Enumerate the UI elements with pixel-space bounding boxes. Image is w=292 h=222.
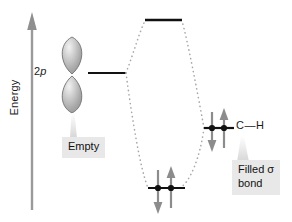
up-arrow-icon: [27, 12, 37, 30]
ch-bond-label: C—H: [236, 120, 264, 131]
orbital-label-2p: 2p: [34, 66, 46, 77]
filled-callout-pointer: [237, 136, 249, 162]
bonding-mo-group: [148, 166, 185, 214]
electron-spin-down-ch: [208, 112, 217, 152]
electron-dot-bonding-1: [155, 185, 161, 191]
electron-dot-ch-1: [209, 125, 215, 131]
energy-axis-label: Energy: [9, 68, 20, 128]
correlation-lines: [126, 21, 204, 188]
ch-sigma-group: [204, 108, 234, 152]
electron-spin-down-bonding: [154, 170, 163, 214]
mo-energy-diagram: Energy 2p Empty C—H Filled σ bond: [0, 0, 292, 222]
correlation-2p-to-bonding: [126, 73, 148, 188]
correlation-ch-to-bonding: [180, 128, 204, 188]
filled-sigma-bond-callout-label: Filled σ bond: [232, 160, 280, 195]
electron-dot-bonding-2: [168, 185, 174, 191]
correlation-ch-to-antibonding: [182, 21, 204, 128]
p-orbital-dumbbell-icon: [62, 37, 82, 113]
empty-callout-label: Empty: [62, 137, 105, 158]
electron-dot-ch-2: [221, 125, 227, 131]
correlation-2p-to-antibonding: [126, 21, 145, 73]
empty-callout-pointer: [70, 113, 77, 138]
energy-axis: [27, 12, 37, 210]
orbital-label-2p-italic: p: [40, 65, 46, 77]
